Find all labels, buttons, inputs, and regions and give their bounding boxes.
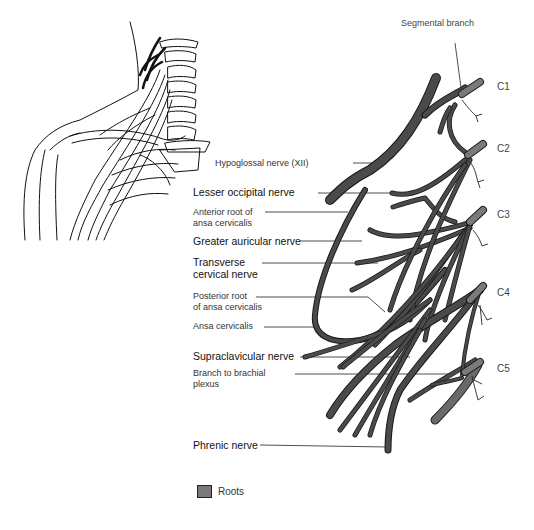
label-branch-brachial-line2: plexus (193, 379, 219, 390)
label-ansa-cervicalis: Ansa cervicalis (193, 321, 253, 332)
label-posterior-root-line2: of ansa cervicalis (193, 302, 262, 313)
label-posterior-root-line1: Posterior root (193, 291, 247, 302)
label-branch-brachial-line1: Branch to brachial (193, 368, 266, 379)
label-phrenic-nerve: Phrenic nerve (193, 439, 258, 452)
label-supraclavicular-nerve: Supraclavicular nerve (193, 350, 294, 363)
legend-roots-label: Roots (218, 486, 244, 497)
label-root-c5: C5 (497, 363, 510, 374)
legend-roots-swatch (197, 485, 212, 498)
label-transverse-cervical-line2: cervical nerve (193, 268, 258, 281)
label-hypoglossal-nerve: Hypoglossal nerve (XII) (215, 158, 309, 169)
label-root-c4: C4 (497, 287, 510, 298)
label-root-c3: C3 (497, 209, 510, 220)
label-lesser-occipital-nerve: Lesser occipital nerve (193, 186, 295, 199)
label-segmental-branch: Segmental branch (401, 18, 474, 28)
cervical-plexus-diagram (0, 0, 534, 530)
legend: Roots (197, 485, 244, 498)
label-root-c1: C1 (497, 81, 510, 92)
label-greater-auricular-nerve: Greater auricular nerve (193, 235, 301, 248)
label-root-c2: C2 (497, 143, 510, 154)
label-anterior-root-line1: Anterior root of (193, 207, 253, 218)
label-anterior-root-line2: ansa cervicalis (193, 218, 252, 229)
